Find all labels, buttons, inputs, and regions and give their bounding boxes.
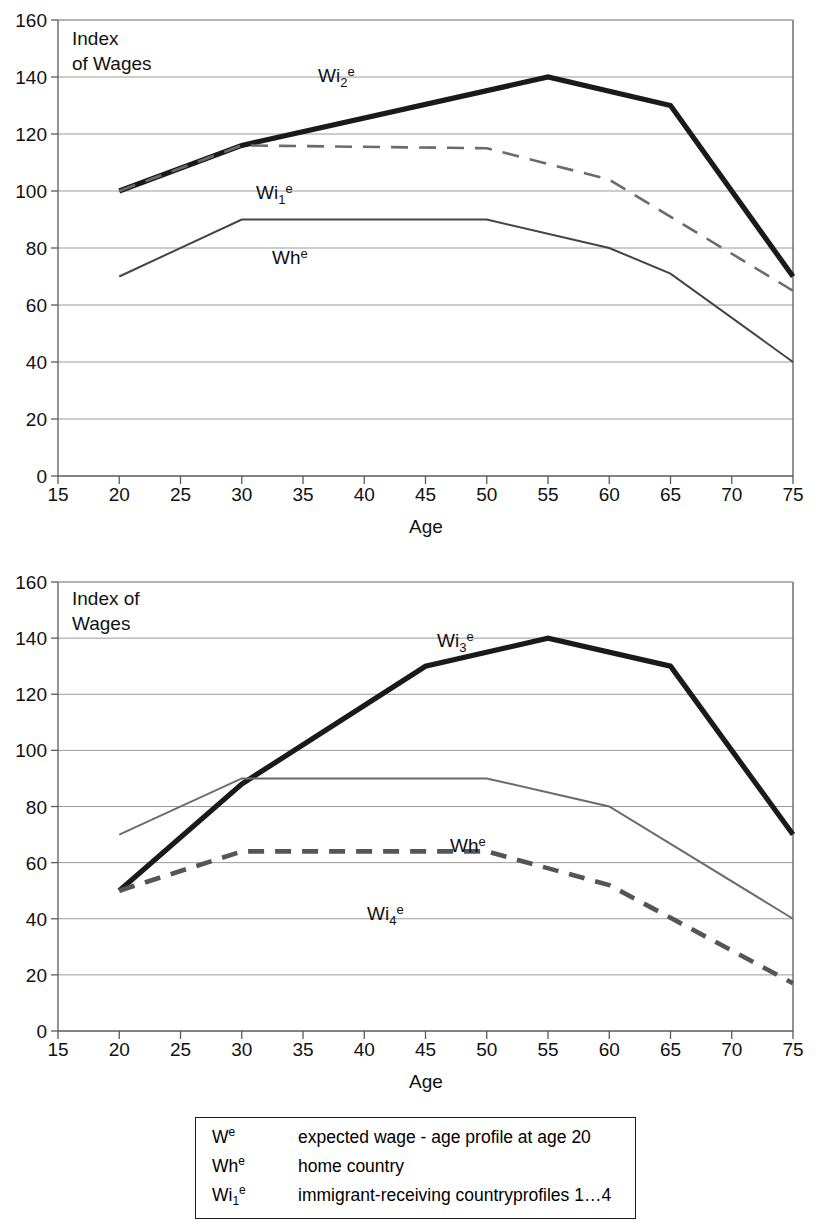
x-tick-label: 35: [292, 1039, 313, 1060]
series-annotations-top: Wi2eWi1eWhe: [256, 64, 355, 268]
data-series-bottom: [119, 638, 793, 983]
series-label-Wi1e: Wi1e: [256, 181, 293, 207]
x-axis-title-top: Age: [409, 516, 443, 537]
legend-box: We expected wage - age profile at age 20…: [195, 1117, 636, 1219]
y-tick-label: 160: [15, 10, 47, 31]
x-tick-label: 15: [47, 1039, 68, 1060]
x-tick-labels-top: 15202530354045505560657075: [47, 484, 803, 505]
plot-note-line2: of Wages: [72, 53, 152, 74]
legend-symbol: Whe: [212, 1154, 298, 1181]
legend-row: We expected wage - age profile at age 20: [196, 1124, 635, 1153]
x-tick-label: 55: [537, 484, 558, 505]
x-axis-title-bottom: Age: [409, 1071, 443, 1092]
legend-symbol: Wi1e: [212, 1183, 298, 1210]
x-tick-label: 70: [721, 1039, 742, 1060]
x-tick-label: 70: [721, 484, 742, 505]
x-tick-label: 35: [292, 484, 313, 505]
x-tick-label: 25: [170, 1039, 191, 1060]
y-tick-label: 20: [26, 409, 47, 430]
figure-page: 020406080100120140160 152025303540455055…: [0, 0, 831, 1225]
x-tick-label: 50: [476, 484, 497, 505]
y-tick-label: 140: [15, 628, 47, 649]
chart-top-canvas: 020406080100120140160 152025303540455055…: [0, 0, 831, 545]
axes-top: [51, 20, 793, 484]
x-tick-label: 75: [782, 484, 803, 505]
x-tick-label: 55: [537, 1039, 558, 1060]
chart-bottom: 020406080100120140160 152025303540455055…: [0, 560, 831, 1100]
series-label-Whe: Whe: [272, 246, 308, 268]
legend-row: Whe home country: [196, 1153, 635, 1182]
plot-note-line1: Index: [72, 28, 119, 49]
y-tick-label: 100: [15, 740, 47, 761]
y-tick-label: 120: [15, 124, 47, 145]
series-label-Wi4e: Wi4e: [367, 902, 404, 928]
legend-row: Wi1e immigrant-receiving countryprofiles…: [196, 1182, 635, 1211]
plot-note-line2: Wages: [72, 613, 130, 634]
x-tick-label: 50: [476, 1039, 497, 1060]
y-tick-labels-bottom: 020406080100120140160: [15, 572, 47, 1042]
x-tick-label: 15: [47, 484, 68, 505]
series-label-Wi3e: Wi3e: [437, 629, 474, 655]
x-tick-label: 60: [599, 1039, 620, 1060]
x-tick-label: 25: [170, 484, 191, 505]
x-tick-label: 60: [599, 484, 620, 505]
axes-bottom: [51, 582, 793, 1039]
legend-description: home country: [298, 1155, 404, 1178]
x-tick-label: 65: [660, 1039, 681, 1060]
x-tick-label: 20: [109, 1039, 130, 1060]
series-line-Wi1e: [119, 145, 793, 290]
legend-description: immigrant-receiving countryprofiles 1…4: [298, 1184, 611, 1207]
chart-bottom-canvas: 020406080100120140160 152025303540455055…: [0, 560, 831, 1100]
x-tick-labels-bottom: 15202530354045505560657075: [47, 1039, 803, 1060]
x-tick-label: 65: [660, 484, 681, 505]
y-tick-label: 20: [26, 965, 47, 986]
y-tick-labels-top: 020406080100120140160: [15, 10, 47, 487]
data-series-top: [119, 77, 793, 362]
y-tick-label: 60: [26, 295, 47, 316]
series-label-Whe: Whe: [450, 834, 486, 856]
x-tick-label: 20: [109, 484, 130, 505]
y-tick-label: 0: [36, 1021, 47, 1042]
x-tick-label: 75: [782, 1039, 803, 1060]
y-tick-label: 60: [26, 853, 47, 874]
x-tick-label: 40: [354, 1039, 375, 1060]
x-tick-label: 30: [231, 484, 252, 505]
plot-note-line1: Index of: [72, 588, 140, 609]
y-tick-label: 40: [26, 909, 47, 930]
x-tick-label: 30: [231, 1039, 252, 1060]
x-tick-label: 45: [415, 484, 436, 505]
y-tick-label: 80: [26, 238, 47, 259]
y-tick-label: 120: [15, 684, 47, 705]
series-line-Whe: [119, 220, 793, 363]
chart-top: 020406080100120140160 152025303540455055…: [0, 0, 831, 545]
legend-symbol: We: [212, 1125, 298, 1152]
x-tick-label: 45: [415, 1039, 436, 1060]
y-tick-label: 160: [15, 572, 47, 593]
series-line-Wi2e: [119, 77, 793, 277]
series-line-Wi4e: [119, 851, 793, 983]
x-tick-label: 40: [354, 484, 375, 505]
legend-description: expected wage - age profile at age 20: [298, 1126, 591, 1149]
y-tick-label: 100: [15, 181, 47, 202]
series-label-Wi2e: Wi2e: [318, 64, 355, 90]
y-tick-label: 140: [15, 67, 47, 88]
y-tick-label: 0: [36, 466, 47, 487]
y-tick-label: 40: [26, 352, 47, 373]
y-tick-label: 80: [26, 797, 47, 818]
